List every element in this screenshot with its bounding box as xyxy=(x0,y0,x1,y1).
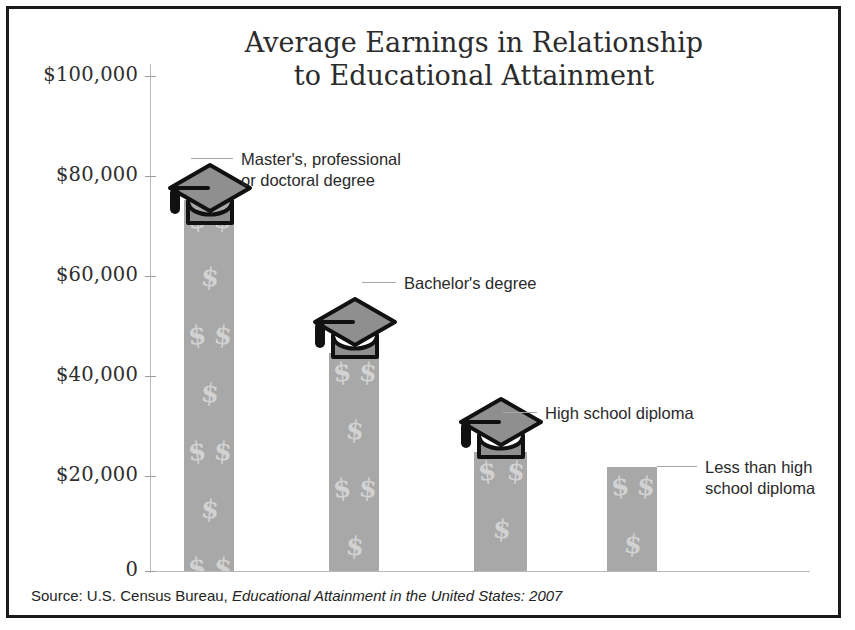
source-note: Source: U.S. Census Bureau, Educational … xyxy=(31,587,562,604)
leader-line xyxy=(362,282,396,283)
tick-mark xyxy=(145,376,156,377)
chart-title: Average Earnings in Relationship to Educ… xyxy=(189,27,759,93)
graduation-cap-svg xyxy=(455,391,547,469)
graduation-cap-icon xyxy=(455,391,547,469)
chart-title-line-1: Average Earnings in Relationship xyxy=(189,27,759,60)
y-tick-label: $60,000 xyxy=(56,263,138,286)
bar-bachelors-degree: $$$$$$$$ xyxy=(329,353,379,571)
tick-mark xyxy=(145,76,156,77)
graduation-cap-svg xyxy=(309,291,401,369)
graduation-cap-icon xyxy=(309,291,401,369)
leader-line xyxy=(657,466,697,467)
callout-line-1: Bachelor's degree xyxy=(404,273,536,294)
dollar-sign-icon: $ xyxy=(358,474,378,501)
dollar-sign-icon: $ xyxy=(332,474,353,502)
callout-text: High school diploma xyxy=(545,403,694,424)
callout-text: Master's, professional or doctoral degre… xyxy=(241,149,401,191)
dollar-sign-icon: $ xyxy=(213,321,233,348)
dollar-sign-icon: $ xyxy=(491,515,511,542)
bar-high-school-diploma: $$$$$$ xyxy=(474,452,527,571)
dollar-sign-icon: $ xyxy=(623,530,643,557)
callout-line-1: High school diploma xyxy=(545,403,694,424)
callout-line-2: school diploma xyxy=(705,478,815,499)
tick-mark xyxy=(145,571,156,572)
callout-line-1: Master's, professional xyxy=(241,149,401,170)
tick-mark xyxy=(145,276,156,277)
chart-plot-area: Average Earnings in Relationship to Educ… xyxy=(9,9,844,621)
dollar-sign-icon: $ xyxy=(636,472,656,499)
dollar-sign-icon: $ xyxy=(187,437,208,465)
bar-less-than-high-school: $$$$$ xyxy=(607,467,657,571)
callout-text: Bachelor's degree xyxy=(404,273,536,294)
y-tick-label: $20,000 xyxy=(56,463,138,486)
bar-masters-professional-doctoral: $$$$$$$$$$$$ xyxy=(184,200,234,571)
callout-text: Less than high school diploma xyxy=(705,457,815,499)
dollar-sign-icon: $ xyxy=(187,553,208,571)
leader-line xyxy=(191,158,233,159)
source-prefix: Source: U.S. Census Bureau, xyxy=(31,587,232,604)
dollar-sign-icon: $ xyxy=(200,495,220,522)
chart-title-line-2: to Educational Attainment xyxy=(189,60,759,93)
chart-frame: Average Earnings in Relationship to Educ… xyxy=(6,6,841,618)
leader-line xyxy=(503,412,537,413)
tick-mark xyxy=(145,476,156,477)
y-tick-label: $40,000 xyxy=(56,363,138,386)
dollar-sign-icon: $ xyxy=(187,321,208,349)
dollar-sign-icon: $ xyxy=(345,532,365,559)
dollar-sign-icon: $ xyxy=(213,437,233,464)
x-axis-line xyxy=(150,571,810,572)
source-title: Educational Attainment in the United Sta… xyxy=(232,587,563,604)
dollar-sign-icon: $ xyxy=(200,379,220,406)
callout-line-2: or doctoral degree xyxy=(241,170,401,191)
y-tick-label: $100,000 xyxy=(43,63,138,86)
tick-mark xyxy=(145,176,156,177)
y-tick-label: 0 xyxy=(125,558,138,581)
dollar-sign-icon: $ xyxy=(213,553,233,571)
dollar-sign-icon: $ xyxy=(610,472,631,500)
dollar-sign-icon: $ xyxy=(345,416,365,443)
y-axis-line xyxy=(150,64,151,573)
y-tick-label: $80,000 xyxy=(56,163,138,186)
callout-line-1: Less than high xyxy=(705,457,815,478)
dollar-sign-icon: $ xyxy=(200,263,220,290)
